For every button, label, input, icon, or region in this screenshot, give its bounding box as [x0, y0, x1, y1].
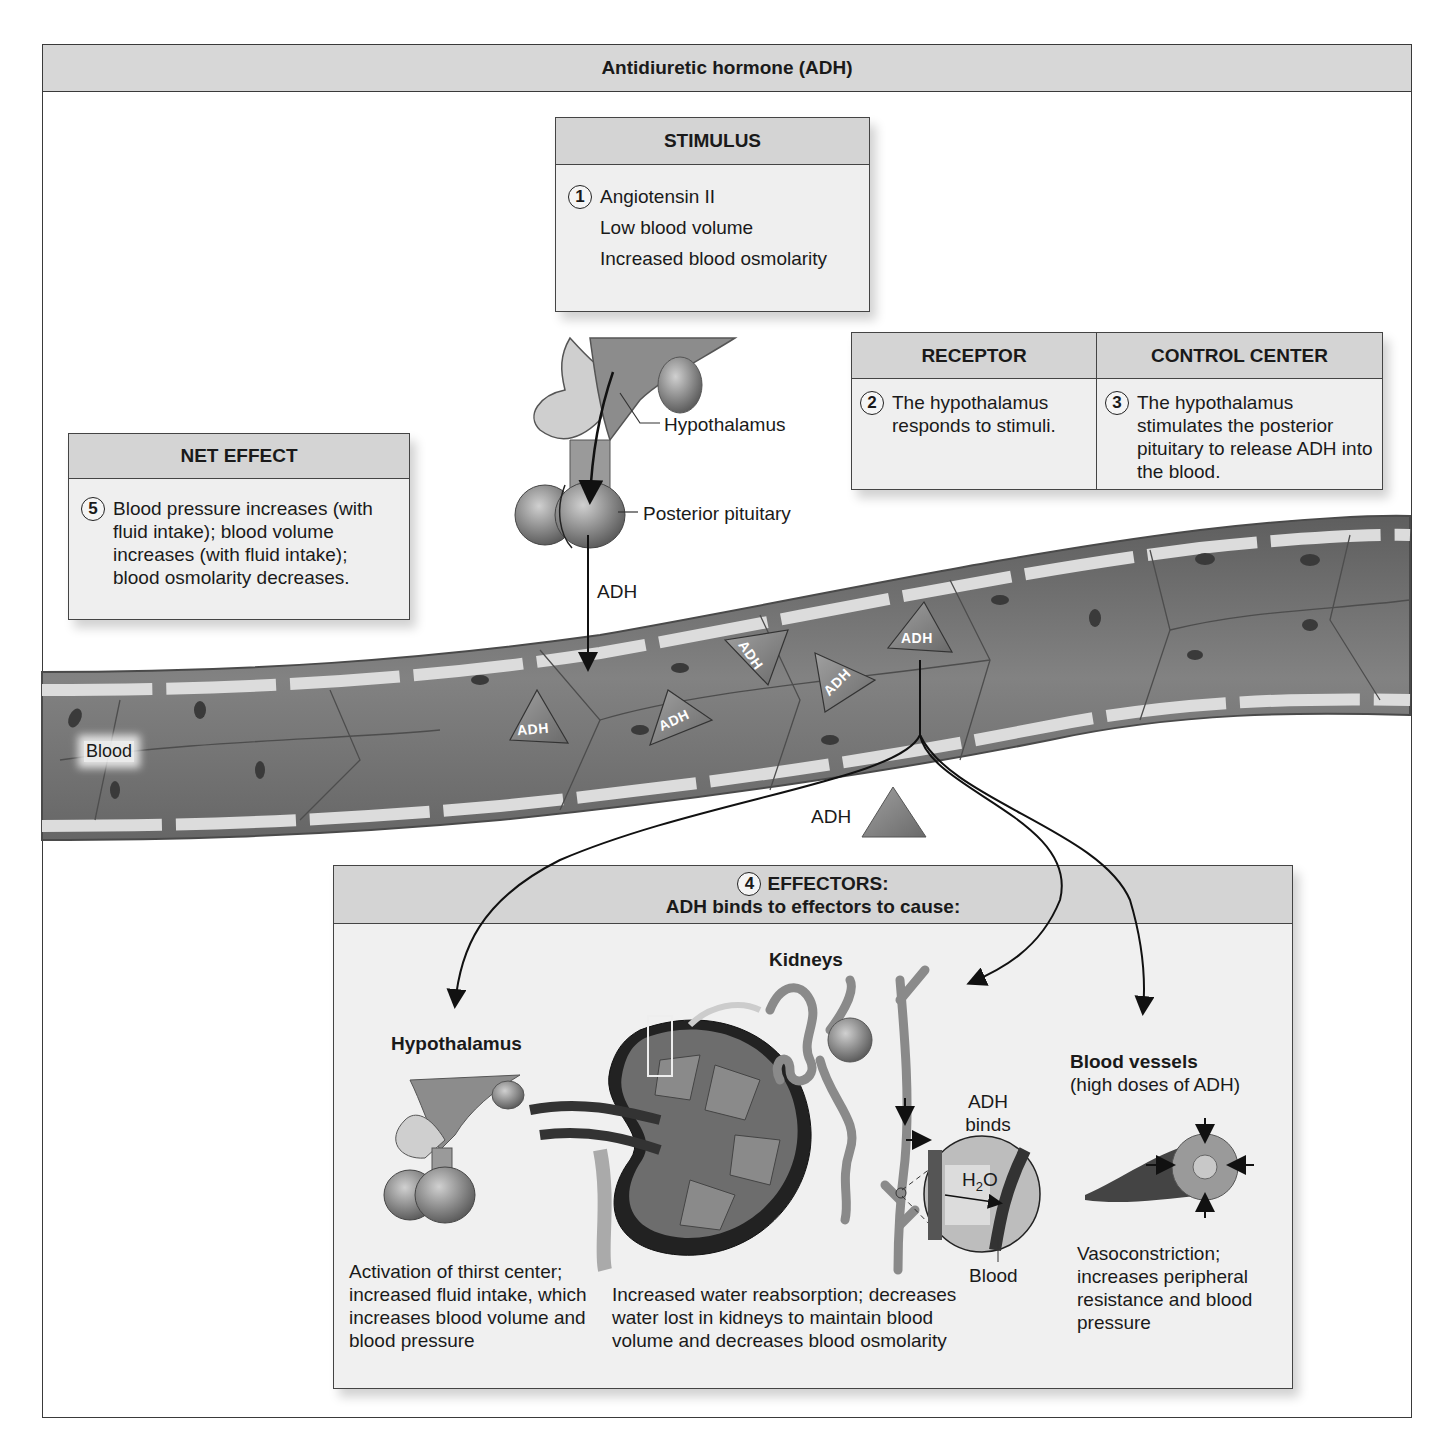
- stimulus-item: Increased blood osmolarity: [600, 243, 827, 274]
- effectors-heading: 4 EFFECTORS: ADH binds to effectors to c…: [334, 866, 1292, 924]
- effectors-subtitle: ADH binds to effectors to cause:: [666, 896, 961, 918]
- net-effect-box: NET EFFECT 5 Blood pressure increases (w…: [68, 433, 410, 620]
- adh-molecule-label: ADH: [516, 720, 549, 739]
- step-1-badge: 1: [568, 185, 592, 209]
- receptor-heading: RECEPTOR: [852, 333, 1096, 379]
- receptor-control-box: RECEPTOR 2 The hypothalamus responds to …: [851, 332, 1383, 490]
- water-label: H2O: [962, 1168, 998, 1198]
- step-2-badge: 2: [860, 391, 884, 415]
- control-center-column: CONTROL CENTER 3 The hypothalamus stimul…: [1097, 333, 1382, 489]
- effectors-title: EFFECTORS:: [767, 873, 888, 895]
- stimulus-heading: STIMULUS: [556, 118, 869, 165]
- effector-hypothalamus-title: Hypothalamus: [391, 1032, 522, 1055]
- adh-binds-label: ADH binds: [958, 1090, 1018, 1136]
- blood-label: Blood: [84, 741, 134, 762]
- hypothalamus-label: Hypothalamus: [664, 413, 785, 436]
- effector-blood-vessels-text: Vasoconstriction; increases peripheral r…: [1077, 1242, 1277, 1334]
- posterior-pituitary-label: Posterior pituitary: [643, 502, 791, 525]
- receptor-text: The hypothalamus responds to stimuli.: [892, 391, 1088, 437]
- step-5-badge: 5: [81, 497, 105, 521]
- free-adh-label: ADH: [811, 805, 851, 828]
- effector-blood-vessels-title: Blood vessels: [1070, 1050, 1198, 1073]
- control-center-text: The hypothalamus stimulates the posterio…: [1137, 391, 1374, 483]
- step-4-badge: 4: [737, 872, 761, 896]
- net-effect-text: Blood pressure increases (with fluid int…: [113, 497, 399, 589]
- stimulus-box: STIMULUS 1 Angiotensin II Low blood volu…: [555, 117, 870, 312]
- adh-molecule-label: ADH: [901, 630, 933, 646]
- stimulus-item: Angiotensin II: [600, 181, 827, 212]
- control-center-heading: CONTROL CENTER: [1097, 333, 1382, 379]
- effector-blood-vessels-subtitle: (high doses of ADH): [1070, 1073, 1240, 1096]
- effector-kidneys-text: Increased water reabsorption; decreases …: [612, 1283, 982, 1352]
- step-3-badge: 3: [1105, 391, 1129, 415]
- diagram-title: Antidiuretic hormone (ADH): [43, 45, 1411, 92]
- receptor-column: RECEPTOR 2 The hypothalamus responds to …: [852, 333, 1097, 489]
- net-effect-heading: NET EFFECT: [69, 434, 409, 479]
- adh-release-label: ADH: [597, 580, 637, 603]
- effector-kidneys-title: Kidneys: [769, 948, 843, 971]
- effector-hypothalamus-text: Activation of thirst center; increased f…: [349, 1260, 589, 1352]
- stimulus-item: Low blood volume: [600, 212, 827, 243]
